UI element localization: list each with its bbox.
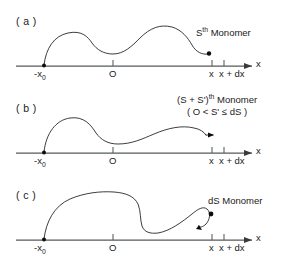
panel-a: ( a ) Sth Monomer -x0 O x x + dx x [0,0,290,89]
panel-c-axis-label-x-plus-dx: x + dx [219,242,245,253]
panel-b-minus-x0-sub: 0 [42,161,46,168]
panel-a-axis-label-origin: O [109,68,116,79]
panel-b-minus-x0-main: -x [34,155,42,166]
panel-c-axis-label-origin: O [109,242,116,253]
panel-b-axis-label-x-plus-dx: x + dx [219,155,245,166]
panel-c: ( c ) dS Monomer -x0 O x x + dx x [0,174,290,263]
panel-c-minus-x0-main: -x [34,242,42,253]
panel-a-minus-x0-main: -x [34,68,42,79]
panel-b-axis-label-x: x [209,155,214,166]
panel-a-minus-x0-sub: 0 [42,74,46,81]
panel-a-axis-label-x: x [209,68,214,79]
panel-b-start-dot [42,151,46,155]
panel-c-axis-label-minus-x0: -x0 [34,242,46,255]
panel-a-end-dot [207,51,211,55]
panel-a-start-dot [42,64,46,68]
panel-b: ( b ) (S + S')th Monomer ( O < S' ≤ dS )… [0,87,290,176]
panel-a-axis-arrowhead [244,63,252,69]
panel-c-chain-curve [44,192,210,239]
panel-c-end-dot [209,212,214,217]
panel-b-axis-label-origin: O [109,155,116,166]
panel-b-axis-label-minus-x0: -x0 [34,155,46,168]
panel-b-axis-name: x [256,145,261,156]
panel-c-start-dot [42,238,46,242]
panel-c-minus-x0-sub: 0 [42,248,46,255]
panel-b-axis-arrowhead [244,150,252,156]
panel-a-axis-label-x-plus-dx: x + dx [219,68,245,79]
panel-c-hook-arrowhead [196,225,202,230]
panel-c-axis-name: x [256,232,261,243]
panel-b-end-arrowhead [208,133,214,138]
panel-b-chain-curve [44,118,206,152]
panel-a-axis-label-minus-x0: -x0 [34,68,46,81]
panel-a-axis-name: x [256,58,261,69]
panel-c-axis-arrowhead [244,237,252,243]
panel-c-axis-label-x: x [209,242,214,253]
figure-root: ( a ) Sth Monomer -x0 O x x + dx x [0,0,290,267]
panel-a-chain-curve [44,26,208,65]
